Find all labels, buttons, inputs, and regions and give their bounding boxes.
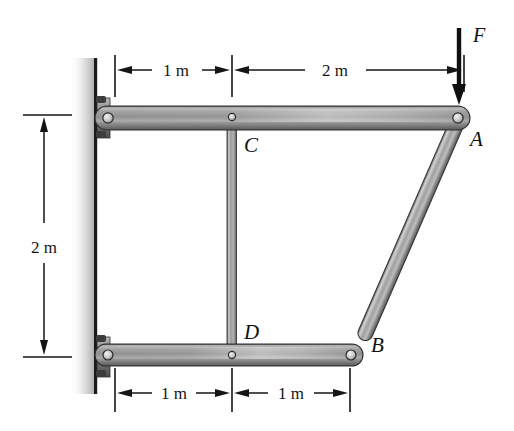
pin-joint-a: [453, 113, 463, 123]
label-point-b: B: [371, 333, 384, 357]
pin-top-wall: [103, 113, 113, 123]
pin-joint-c: [228, 113, 235, 120]
bottom-horizontal-member: [95, 344, 363, 366]
dim-arrowhead-down-2m: [40, 340, 48, 355]
top-horizontal-member: [95, 106, 470, 130]
left-dimension-group: 2 m: [23, 115, 72, 357]
force-arrow-group: F: [452, 24, 486, 105]
engineering-diagram: 1 m 2 m 2 m 1 m 1 m: [0, 0, 514, 431]
dim-arrowhead-br-left: [234, 389, 249, 397]
label-point-a: A: [468, 127, 483, 151]
dim-label-top-right: 2 m: [322, 61, 348, 80]
dim-arrowhead-right-1m: [215, 66, 230, 74]
diagonal-strut-body: [356, 110, 469, 343]
top-bracket-bolt-lower: [96, 131, 106, 138]
label-point-d: D: [243, 320, 259, 344]
wall-group: [70, 58, 97, 394]
dim-arrowhead-up-2m: [40, 117, 48, 132]
dim-label-bottom-left: 1 m: [161, 384, 187, 403]
pin-joint-b: [346, 350, 356, 360]
dim-arrowhead-left-1m: [117, 66, 132, 74]
vertical-member-cd: [227, 116, 237, 348]
vertical-member-body: [227, 116, 237, 348]
bottom-bracket-bolt-lower: [96, 370, 106, 377]
top-dimension-group: 1 m 2 m: [115, 55, 464, 97]
label-point-c: C: [244, 133, 259, 157]
bottom-bracket-bolt-upper: [96, 335, 106, 342]
force-label: F: [472, 24, 486, 46]
bottom-dimension-group: 1 m 1 m: [115, 368, 350, 412]
dim-arrowhead-bl-right: [215, 389, 230, 397]
dim-arrowhead-bl-left: [117, 389, 132, 397]
diagonal-strut-ab: [356, 110, 469, 343]
wall-shadow: [70, 58, 96, 394]
pin-bottom-wall: [103, 350, 113, 360]
pin-joint-d: [228, 351, 235, 358]
dim-label-bottom-right: 1 m: [278, 384, 304, 403]
top-bracket-bolt-upper: [96, 96, 106, 103]
dim-label-left-vertical: 2 m: [31, 238, 57, 257]
top-bar-sheen: [96, 109, 469, 122]
force-arrowhead: [452, 84, 466, 105]
dim-label-top-left: 1 m: [163, 61, 189, 80]
dim-arrowhead-br-right: [333, 389, 348, 397]
dim-arrowhead-left-2m: [234, 66, 249, 74]
